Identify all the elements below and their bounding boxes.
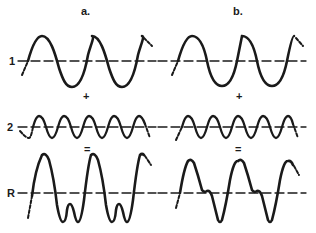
wave-2a-start xyxy=(20,127,33,138)
wave-1a-start xyxy=(22,61,28,75)
wave-1b-start xyxy=(172,61,178,75)
wave-ra xyxy=(32,154,144,222)
wave-rb xyxy=(180,160,293,222)
wave-1a-end xyxy=(144,38,152,46)
wave-rb-end xyxy=(294,166,299,175)
wave-2a-end xyxy=(145,124,150,138)
wave-rb-start xyxy=(176,193,180,208)
wave-1b-end xyxy=(296,38,303,46)
wave-2b-end xyxy=(293,124,298,138)
wave-diagram xyxy=(0,0,316,233)
wave-ra-end xyxy=(145,156,151,165)
wave-2b-start xyxy=(176,127,182,140)
wave-ra-start xyxy=(28,196,32,218)
